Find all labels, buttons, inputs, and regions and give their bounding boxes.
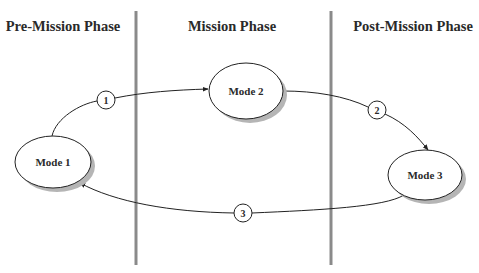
transition-1 [52,89,208,136]
node-mode-1: Mode 1 [15,136,95,192]
step-label-2: 2 [375,105,380,116]
node-mode-3: Mode 3 [388,150,466,204]
node-label-mode-2: Mode 2 [228,85,264,97]
step-marker-3: 3 [234,204,252,222]
node-label-mode-3: Mode 3 [407,169,443,181]
diagram-canvas: Mode 1 Mode 2 Mode 3 1 2 3 [0,0,479,273]
step-label-3: 3 [241,208,246,219]
mission-phase-diagram: Pre-Mission Phase Mission Phase Post-Mis… [0,0,479,273]
node-label-mode-1: Mode 1 [35,156,70,168]
step-marker-2: 2 [368,101,386,119]
step-label-1: 1 [104,95,109,106]
node-mode-2: Mode 2 [209,63,287,123]
transition-2 [283,91,428,150]
step-marker-1: 1 [97,91,115,109]
